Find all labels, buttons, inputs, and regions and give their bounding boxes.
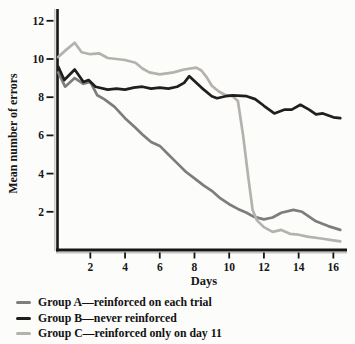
latent-learning-error-chart: Mean number of errors 246810122468101214… (0, 0, 355, 344)
y-tick-label: 2 (38, 206, 44, 218)
legend-label-group-c: Group C—reinforced only on day 11 (38, 326, 222, 341)
legend-label-group-a: Group A—reinforced on each trial (38, 295, 212, 310)
x-tick-label: 12 (258, 261, 270, 273)
x-tick-label: 2 (87, 261, 93, 273)
y-tick-label: 10 (33, 53, 45, 65)
legend: Group A—reinforced on each trial Group B… (16, 295, 351, 342)
series-line-group-a (58, 72, 340, 230)
plot-area: 24681012246810121416 (0, 0, 355, 292)
x-tick-label: 4 (122, 261, 128, 273)
legend-swatch-group-b (16, 317, 31, 320)
x-tick-label: 8 (192, 261, 198, 273)
legend-swatch-group-c (16, 332, 31, 335)
y-tick-label: 6 (38, 129, 44, 141)
series-line-group-b (58, 67, 340, 119)
x-tick-label: 6 (157, 261, 163, 273)
legend-item-group-b: Group B—never reinforced (16, 311, 351, 327)
x-axis-title: Days (154, 274, 254, 289)
x-tick-label: 16 (328, 261, 340, 273)
y-tick-label: 8 (38, 91, 44, 103)
y-tick-label: 12 (33, 15, 45, 27)
legend-swatch-group-a (16, 301, 31, 304)
legend-item-group-c: Group C—reinforced only on day 11 (16, 326, 351, 342)
y-tick-label: 4 (38, 168, 44, 180)
x-tick-label: 14 (293, 261, 305, 273)
legend-item-group-a: Group A—reinforced on each trial (16, 295, 351, 311)
x-tick-label: 10 (223, 261, 235, 273)
legend-label-group-b: Group B—never reinforced (38, 311, 177, 326)
